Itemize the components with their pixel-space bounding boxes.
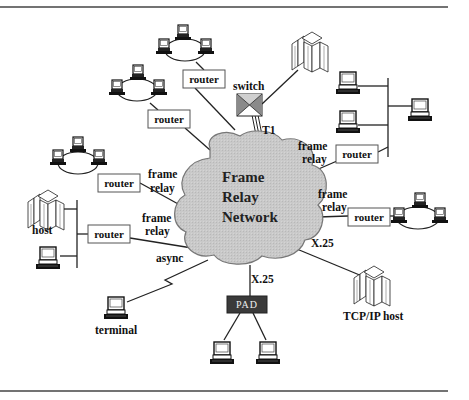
lan-ring-right: [391, 193, 448, 229]
x25-label-pad: X.25: [251, 273, 274, 285]
link-label-relay: relay: [322, 201, 347, 214]
computer-icon: [175, 25, 191, 40]
tcpip-host-label: TCP/IP host: [343, 310, 404, 322]
router-right-1: router: [336, 145, 378, 163]
switch-icon: [237, 94, 262, 116]
link-label-relay: relay: [302, 153, 327, 166]
cloud-label-line-1: Frame: [222, 169, 265, 185]
router-label: router: [189, 73, 219, 85]
async-label: async: [156, 252, 183, 265]
lan-ring-top-2: [109, 65, 167, 101]
computer-icon: [130, 65, 146, 80]
computer-icon: [109, 80, 125, 95]
t1-label: T1: [262, 124, 276, 136]
computer-icon: [50, 150, 66, 165]
link-label-relay: relay: [150, 182, 175, 195]
router-label: router: [104, 177, 134, 189]
computer-icon: [198, 39, 214, 54]
computer-icon: [70, 137, 86, 152]
router-top-2: router: [148, 110, 190, 128]
computer-icon: [156, 39, 172, 54]
computer-icon: [408, 99, 432, 121]
computer-icon: [432, 208, 448, 223]
pad-box: PAD: [227, 296, 267, 313]
computer-icon: [256, 342, 280, 364]
pad-label: PAD: [236, 299, 258, 310]
cloud-label-line-3: Network: [222, 209, 278, 225]
tcpip-host-mainframe-icon: [354, 266, 390, 306]
router-top-1: router: [183, 70, 225, 88]
router-right-2: router: [348, 208, 390, 226]
computer-icon: [151, 80, 167, 95]
computer-icon: [336, 72, 360, 94]
computer-icon: [36, 247, 60, 269]
terminal-computer-icon: [104, 297, 128, 319]
computer-icon: [336, 111, 360, 133]
switch-label: switch: [233, 80, 265, 92]
link-label-relay: relay: [145, 225, 170, 238]
host-mainframe-icon: [292, 32, 328, 72]
router-label: router: [94, 228, 124, 240]
link-label-frame: frame: [148, 168, 177, 180]
router-label: router: [342, 148, 372, 160]
frame-relay-diagram: Frame Relay Network router router router…: [0, 0, 469, 400]
computer-icon: [412, 193, 428, 208]
x25-label-right: X.25: [311, 237, 334, 249]
host-label: host: [32, 224, 53, 236]
router-label: router: [154, 113, 184, 125]
lan-ring-left: [50, 137, 107, 174]
cloud-label-line-2: Relay: [222, 189, 259, 205]
link-label-frame: frame: [298, 140, 327, 152]
terminal-label: terminal: [95, 324, 137, 336]
computer-icon: [91, 150, 107, 165]
lan-ring-top-1: [156, 25, 214, 61]
router-left-1: router: [98, 174, 140, 192]
link-label-frame: frame: [318, 188, 347, 200]
computer-icon: [210, 342, 234, 364]
router-left-2: router: [88, 225, 130, 243]
link-label-frame: frame: [142, 212, 171, 224]
router-label: router: [354, 211, 384, 223]
